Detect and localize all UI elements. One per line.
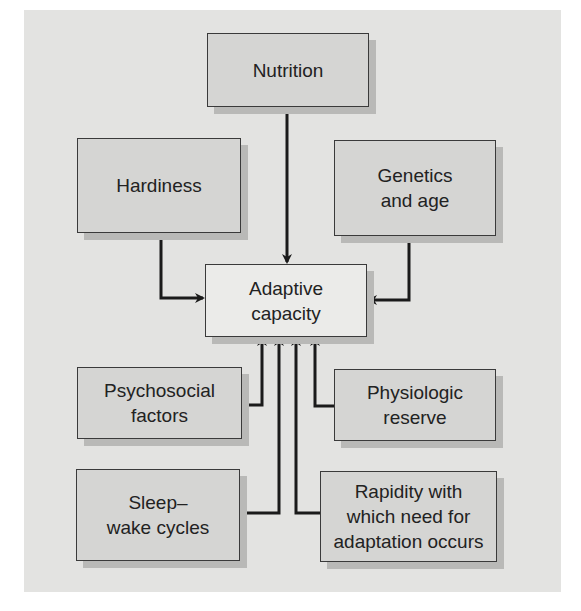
factor-box-nutrition: Nutrition — [207, 33, 369, 107]
factor-box-genetics-and-age: Genetics and age — [334, 140, 496, 236]
factor-box-sleep-wake-cycles: Sleep– wake cycles — [76, 469, 240, 561]
factor-label: Rapidity with which need for adaptation … — [334, 479, 484, 554]
arrow-hardiness-to-center — [161, 233, 203, 298]
arrow-genetics-to-center — [369, 236, 409, 300]
factor-label: Genetics and age — [378, 163, 453, 213]
center-label: Adaptive capacity — [249, 276, 323, 326]
factor-box-psychosocial: Psychosocial factors — [77, 367, 242, 439]
factor-label: Psychosocial factors — [104, 378, 215, 428]
factor-label: Nutrition — [253, 58, 324, 83]
arrow-physiologic-to-center — [315, 338, 334, 406]
arrow-sleep-to-center — [240, 338, 279, 513]
factor-box-rapidity-of-adaptation: Rapidity with which need for adaptation … — [320, 471, 497, 562]
factor-box-hardiness: Hardiness — [77, 138, 241, 233]
factor-label: Physiologic reserve — [367, 380, 463, 430]
arrow-psychosocial-to-center — [242, 338, 262, 405]
factor-label: Sleep– wake cycles — [107, 490, 209, 540]
factor-box-physiologic-reserve: Physiologic reserve — [334, 369, 496, 441]
center-box-adaptive-capacity: Adaptive capacity — [205, 264, 367, 337]
factor-label: Hardiness — [116, 173, 202, 198]
